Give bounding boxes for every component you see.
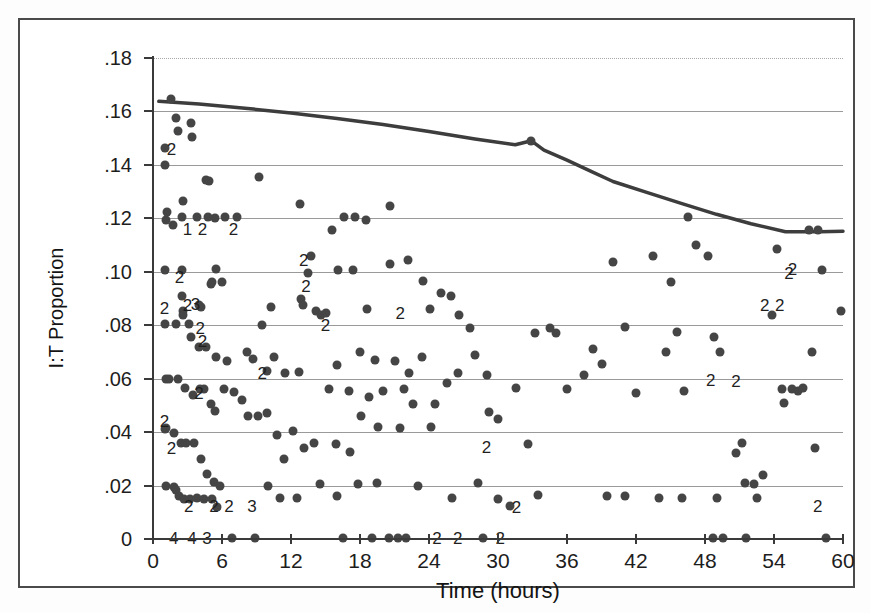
y-tick	[144, 217, 153, 219]
overplot-count-label: 2	[482, 438, 491, 455]
scatter-point	[704, 251, 713, 260]
scatter-point	[683, 212, 692, 221]
scatter-point	[181, 384, 190, 393]
x-tick	[428, 534, 430, 544]
overplot-count-label: 2	[198, 333, 207, 350]
scatter-point	[530, 329, 539, 338]
scatter-point	[680, 386, 689, 395]
scatter-point	[752, 493, 761, 502]
scatter-point	[804, 226, 813, 235]
scatter-point	[836, 306, 845, 315]
y-tick	[144, 271, 153, 273]
scatter-point	[324, 385, 333, 394]
scatter-point	[390, 357, 399, 366]
x-tick-label: 12	[279, 550, 302, 571]
overplot-count-label: 2	[299, 251, 308, 268]
scatter-point	[167, 95, 176, 104]
scatter-point	[678, 493, 687, 502]
scatter-point	[165, 374, 174, 383]
scatter-point	[798, 384, 807, 393]
scatter-point	[356, 347, 365, 356]
scatter-point	[289, 426, 298, 435]
scatter-point	[620, 492, 629, 501]
scatter-point	[244, 412, 253, 421]
y-tick-label: .12	[20, 208, 132, 228]
overplot-count-label: 2	[175, 269, 184, 286]
scatter-point	[474, 478, 483, 487]
scatter-point	[249, 354, 258, 363]
scatter-point	[811, 444, 820, 453]
scatter-point	[349, 266, 358, 275]
y-axis-title: I:T Proportion	[45, 248, 68, 369]
figure-frame: 2122222223222222222222223224432222222 0.…	[18, 18, 855, 588]
scatter-point	[331, 440, 340, 449]
scatter-point	[609, 258, 618, 267]
scatter-point	[534, 490, 543, 499]
scatter-point	[482, 370, 491, 379]
x-tick-label: 24	[417, 550, 440, 571]
scatter-point	[310, 438, 319, 447]
scatter-point	[436, 289, 445, 298]
scatter-point	[237, 396, 246, 405]
x-tick	[152, 534, 154, 544]
scatter-point	[408, 400, 417, 409]
scatter-point	[512, 384, 521, 393]
y-tick	[144, 485, 153, 487]
scatter-point	[267, 302, 276, 311]
scatter-point	[673, 327, 682, 336]
scatter-point	[563, 385, 572, 394]
scatter-point	[494, 494, 503, 503]
scatter-point	[212, 353, 221, 362]
scatter-point	[328, 226, 337, 235]
scatter-point	[471, 350, 480, 359]
scatter-point	[264, 481, 273, 490]
scatter-point	[778, 385, 787, 394]
trendline	[153, 58, 843, 539]
plot-area: 2122222223222222222222223224432222222	[153, 58, 843, 539]
y-tick	[144, 431, 153, 433]
scatter-point	[295, 367, 304, 376]
scatter-point	[399, 385, 408, 394]
overplot-count-label: 2	[167, 440, 176, 457]
scatter-point	[551, 329, 560, 338]
scatter-point	[446, 291, 455, 300]
scatter-point	[172, 319, 181, 328]
scatter-point	[818, 266, 827, 275]
scatter-point	[527, 136, 536, 145]
scatter-point	[345, 448, 354, 457]
scatter-point	[373, 478, 382, 487]
scatter-point	[218, 278, 227, 287]
overplot-count-label: 2	[167, 140, 176, 157]
y-axis-line	[152, 56, 154, 541]
scatter-point	[374, 422, 383, 431]
scatter-point	[353, 480, 362, 489]
scatter-point	[813, 226, 822, 235]
scatter-point	[385, 259, 394, 268]
y-tick-label: .10	[20, 262, 132, 282]
scatter-point	[443, 378, 452, 387]
overplot-count-label: 2	[258, 365, 267, 382]
overplot-count-label: 2	[775, 297, 784, 314]
scatter-point	[333, 361, 342, 370]
overplot-count-label: 2	[229, 221, 238, 238]
scatter-point	[523, 440, 532, 449]
scatter-point	[160, 319, 169, 328]
scatter-point	[453, 369, 462, 378]
x-tick-label: 6	[216, 550, 228, 571]
scatter-point	[186, 119, 195, 128]
scatter-point	[207, 278, 216, 287]
scatter-point	[632, 389, 641, 398]
scatter-point	[448, 493, 457, 502]
x-axis-title: Time (hours)	[436, 578, 560, 604]
scatter-point	[315, 480, 324, 489]
overplot-count-label: 2	[209, 497, 218, 514]
y-tick-label: .08	[20, 315, 132, 335]
scatter-point	[361, 215, 370, 224]
scatter-point	[186, 333, 195, 342]
scatter-point	[418, 353, 427, 362]
overplot-count-label: 2	[224, 497, 233, 514]
overplot-count-label: 2	[396, 305, 405, 322]
scatter-point	[454, 310, 463, 319]
overplot-count-label: 2	[194, 385, 203, 402]
scatter-point	[215, 481, 224, 490]
